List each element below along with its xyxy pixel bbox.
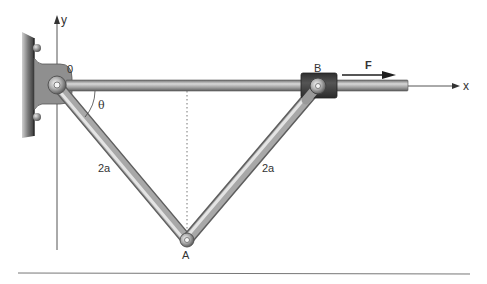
label-force: F (365, 60, 372, 71)
label-theta: θ (98, 100, 105, 111)
label-right-link: 2a (262, 163, 274, 174)
label-y-axis: y (61, 14, 67, 26)
collar-b (301, 73, 337, 100)
bottom-rule (18, 273, 470, 274)
right-link (185, 85, 318, 240)
y-axis (54, 15, 60, 250)
force-arrow (342, 71, 396, 79)
label-left-link: 2a (98, 163, 110, 174)
linkage-diagram (0, 0, 487, 284)
label-origin: 0 (67, 64, 73, 75)
pin-a (180, 233, 194, 247)
pin-o (48, 76, 66, 94)
x-axis (408, 83, 460, 89)
label-collar-b: B (314, 63, 321, 74)
horizontal-rod (66, 80, 408, 91)
left-link (56, 85, 187, 242)
label-x-axis: x (463, 80, 469, 92)
bolt-icon (33, 113, 41, 121)
label-pin-a: A (182, 250, 189, 261)
bolt-icon (33, 44, 41, 52)
